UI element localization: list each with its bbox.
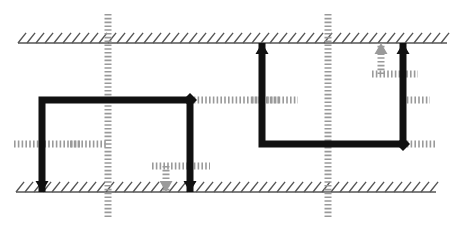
bottom-hatched-boundary (16, 182, 438, 192)
arrowheads-group (36, 43, 410, 192)
terminal-diamond-mid (183, 93, 197, 107)
top-hatched-boundary (18, 33, 449, 43)
arrow-up-right-dotted (375, 43, 388, 54)
solid-paths-group (42, 43, 403, 192)
arrow-down-mid (184, 181, 197, 192)
arrow-up-center (256, 43, 269, 54)
arrow-up-right (397, 43, 410, 54)
schematic-svg (0, 0, 454, 244)
diagram-canvas (0, 0, 454, 244)
hatch-boundaries-group (16, 33, 449, 192)
terminal-diamond-right (396, 137, 410, 151)
dotted-paths-group (14, 14, 436, 217)
